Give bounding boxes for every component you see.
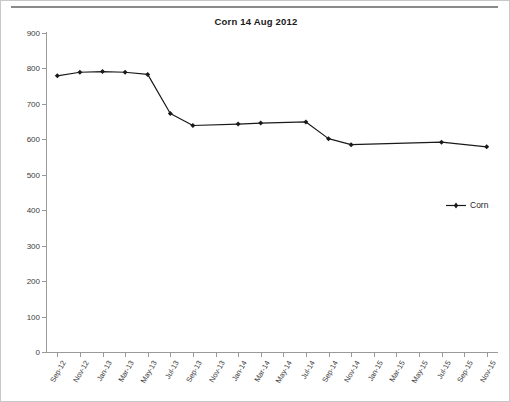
series-data-point: [439, 140, 444, 145]
chart-page: Corn 14 Aug 2012 01002003004005006007008…: [0, 0, 510, 402]
legend-label-corn: Corn: [470, 200, 488, 210]
legend: Corn: [445, 200, 488, 210]
series-plot: [1, 1, 510, 402]
series-data-point: [123, 70, 128, 75]
series-data-point: [77, 70, 82, 75]
series-data-point: [55, 73, 60, 78]
series-data-point: [168, 111, 173, 116]
legend-marker-icon: [445, 201, 467, 210]
series-data-point: [145, 72, 150, 77]
series-markers-corn: [55, 69, 489, 149]
series-data-point: [190, 123, 195, 128]
series-data-point: [100, 69, 105, 74]
series-data-point: [258, 121, 263, 126]
series-data-point: [349, 142, 354, 147]
series-data-point: [484, 144, 489, 149]
series-data-point: [236, 122, 241, 127]
series-line-corn: [57, 72, 486, 147]
